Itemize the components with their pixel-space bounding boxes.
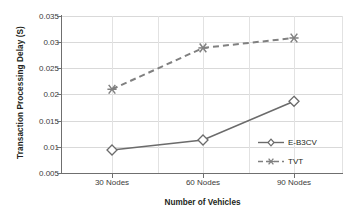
legend-item-tvt[interactable]: TVT (258, 152, 317, 171)
legend: E-B3CV TVT (258, 133, 317, 171)
legend-marker-diamond-icon (258, 137, 284, 148)
legend-label-e-b3cv: E-B3CV (288, 139, 317, 147)
legend-item-e-b3cv[interactable]: E-B3CV (258, 133, 317, 152)
series-line-tvt (107, 34, 298, 94)
chart-container: Transaction Processing Delay (S) Number … (0, 0, 358, 217)
legend-marker-asterisk-icon (258, 156, 284, 167)
series-layer (0, 0, 358, 217)
legend-label-tvt: TVT (288, 158, 303, 166)
